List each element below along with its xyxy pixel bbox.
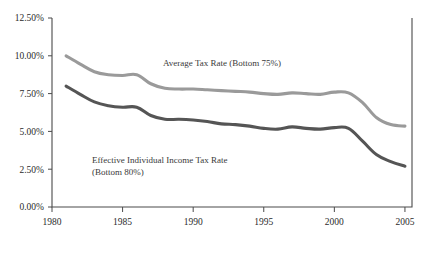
y-axis-ticks [48, 18, 52, 207]
tax-rate-line-chart: 0.00%2.50%5.00%7.50%10.00%12.50% 1980198… [0, 0, 423, 258]
x-tick-label: 1985 [113, 217, 132, 227]
x-axis-ticks [52, 207, 405, 212]
effective-income-tax-rate-label: Effective Individual Income Tax Rate [92, 155, 228, 165]
effective-income-tax-rate-label: (Bottom 80%) [92, 167, 144, 177]
y-tick-label: 2.50% [19, 165, 44, 175]
x-tick-label: 1995 [254, 217, 273, 227]
data-series-group [66, 56, 405, 166]
y-tick-label: 12.50% [15, 13, 44, 23]
x-tick-label: 1980 [43, 217, 62, 227]
x-axis-tick-labels: 198019851990199520002005 [43, 217, 415, 227]
average-tax-rate-label: Average Tax Rate (Bottom 75%) [163, 58, 281, 68]
chart-axes [52, 18, 412, 207]
y-tick-label: 0.00% [19, 202, 44, 212]
x-tick-label: 2005 [395, 217, 414, 227]
y-tick-label: 10.00% [15, 51, 44, 61]
y-tick-label: 5.00% [19, 127, 44, 137]
x-tick-label: 1990 [184, 217, 203, 227]
chart-container: 0.00%2.50%5.00%7.50%10.00%12.50% 1980198… [0, 0, 423, 258]
x-tick-label: 2000 [325, 217, 344, 227]
y-axis-tick-labels: 0.00%2.50%5.00%7.50%10.00%12.50% [15, 13, 44, 212]
y-tick-label: 7.50% [19, 89, 44, 99]
axis-frame [52, 18, 412, 207]
